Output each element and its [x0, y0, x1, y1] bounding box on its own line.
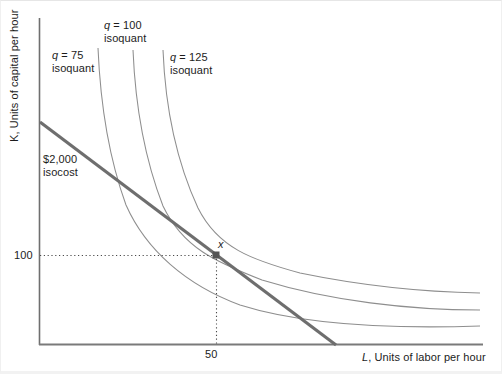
curve-label-q100-line2: isoquant: [104, 32, 146, 45]
isoquant-curve-q75: [98, 48, 480, 327]
optimum-point-marker: [213, 252, 220, 259]
isoquant-curve-q100: [133, 50, 480, 310]
curve-label-q125-line2: isoquant: [170, 64, 212, 77]
y-axis-title-rest: , Units of capital per hour: [8, 10, 20, 135]
optimum-point-label: x: [218, 238, 224, 251]
x-axis-title: L, Units of labor per hour: [362, 351, 486, 364]
curve-label-isocost-line2: isocost: [43, 166, 78, 179]
curve-label-q75-line2: isoquant: [52, 62, 94, 75]
curve-label-isocost-line1: $2,000: [43, 153, 78, 166]
curve-label-q100-line1: q = 100: [104, 19, 146, 32]
curve-label-q100: q = 100 isoquant: [104, 19, 146, 45]
isocost-line: [40, 122, 336, 345]
y-tick-label-100: 100: [14, 249, 33, 262]
curve-label-q125: q = 125 isoquant: [170, 51, 212, 77]
chart-figure: K, Units of capital per hour L, Units of…: [0, 0, 502, 374]
curve-label-isocost: $2,000 isocost: [43, 153, 78, 179]
x-axis-title-rest: , Units of labor per hour: [368, 351, 485, 363]
curve-label-q75: q = 75 isoquant: [52, 49, 94, 75]
curve-label-q125-line1: q = 125: [170, 51, 212, 64]
curve-label-q75-line1: q = 75: [52, 49, 94, 62]
y-axis-title-symbol: K: [8, 135, 20, 142]
y-axis-title: K, Units of capital per hour: [8, 0, 20, 142]
x-tick-label-50: 50: [205, 348, 217, 361]
